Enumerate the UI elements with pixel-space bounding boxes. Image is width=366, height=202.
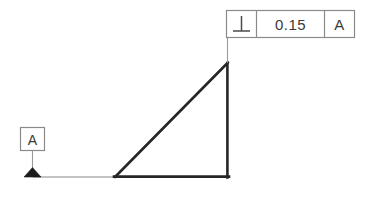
fcf-datum-reference: A	[334, 16, 345, 33]
triangle-hypotenuse-edge	[115, 63, 228, 178]
datum-box-label: A	[28, 132, 38, 148]
gdt-drawing-svg: 0.15 A A	[0, 0, 366, 202]
datum-filled-triangle	[24, 168, 41, 178]
feature-control-frame[interactable]: 0.15 A	[227, 11, 355, 38]
part-outline-triangle	[114, 63, 229, 178]
datum-feature-symbol[interactable]: A	[21, 128, 45, 178]
technical-drawing-canvas: 0.15 A A	[0, 0, 366, 202]
tolerance-value: 0.15	[275, 16, 306, 33]
